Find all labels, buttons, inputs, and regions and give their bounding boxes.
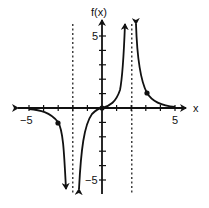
point-neg3-neg1 [55,120,60,125]
y-tick-label-neg5: −5 [85,174,98,186]
point-3-1 [144,90,149,95]
y-axis-label: f(x) [91,6,107,18]
y-tick-label-pos5: 5 [92,30,98,42]
function-graph: x −5 5 f(x) 5 −5 [0,0,209,208]
x-tick-label-pos5: 5 [172,114,178,126]
curve-left-branch [29,109,66,189]
point-origin [99,105,104,110]
x-axis-label: x [193,102,199,114]
x-tick-label-neg5: −5 [20,114,33,126]
curve-right-branch [136,24,175,107]
y-axis: f(x) 5 −5 [85,6,107,194]
